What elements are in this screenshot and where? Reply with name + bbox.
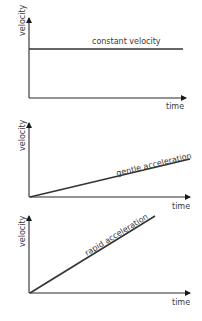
chart-gentle-acceleration: gentle acceleration velocity time [18,119,193,211]
x-axis-label: time [166,102,184,111]
chart-rapid-acceleration: rapid acceleration velocity time [18,212,190,307]
annotation-label: constant velocity [92,37,161,46]
x-axis-label: time [172,202,190,211]
y-axis-label: velocity [18,4,27,36]
x-axis-label: time [172,298,190,307]
chart-constant-velocity: constant velocity velocity time [18,4,186,111]
y-axis-label: velocity [18,215,27,247]
y-axis-label: velocity [18,119,27,151]
annotation-label: rapid acceleration [83,212,149,258]
annotation-label: gentle acceleration [115,151,192,178]
velocity-time-graphs: constant velocity velocity time gentle a… [0,0,202,321]
